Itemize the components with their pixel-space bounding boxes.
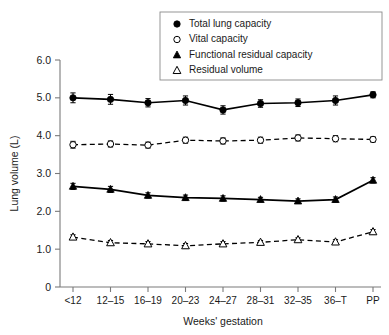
data-point-marker <box>294 236 302 243</box>
x-tick-label: 12–15 <box>97 295 125 306</box>
x-tick-label: 20–23 <box>172 295 200 306</box>
y-tick-label: 3.0 <box>36 167 51 179</box>
x-tick-label: <12 <box>65 295 82 306</box>
legend-item-label: Residual volume <box>189 64 263 75</box>
x-tick-label: PP <box>366 295 380 306</box>
axes: 01.02.03.04.05.06.0<1212–1516–1920–2324–… <box>36 54 381 306</box>
data-point-marker <box>182 137 188 143</box>
data-series <box>69 228 377 249</box>
data-point-marker <box>295 100 301 106</box>
x-tick-label: 36–T <box>324 295 347 306</box>
x-tick-label: 32–35 <box>284 295 312 306</box>
chart-canvas: 01.02.03.04.05.06.0<1212–1516–1920–2324–… <box>0 0 389 335</box>
data-series-layer <box>69 92 377 249</box>
data-point-marker <box>257 238 265 245</box>
data-point-marker <box>70 95 76 101</box>
lung-volume-chart-figure: 01.02.03.04.05.06.0<1212–1516–1920–2324–… <box>0 0 389 335</box>
data-point-marker <box>295 135 301 141</box>
y-tick-label: 0 <box>45 281 51 293</box>
data-series <box>70 92 376 114</box>
x-tick-label: 16–19 <box>134 295 162 306</box>
data-point-marker <box>107 141 113 147</box>
legend-item-label: Functional residual capacity <box>189 49 312 60</box>
data-series <box>69 176 376 204</box>
legend-item: Functional residual capacity <box>173 49 312 60</box>
y-tick-label: 5.0 <box>36 91 51 103</box>
data-point-marker <box>144 240 152 247</box>
data-point-marker <box>332 97 338 103</box>
y-tick-label: 1.0 <box>36 243 51 255</box>
legend-item: Total lung capacity <box>174 18 271 29</box>
legend-item-label: Vital capacity <box>189 33 248 44</box>
data-point-marker <box>145 100 151 106</box>
data-point-marker <box>332 135 338 141</box>
y-tick-label: 2.0 <box>36 205 51 217</box>
data-point-marker <box>370 136 376 142</box>
data-point-marker <box>145 142 151 148</box>
data-point-marker <box>107 96 113 102</box>
legend-item-label: Total lung capacity <box>189 18 271 29</box>
data-point-marker <box>182 97 188 103</box>
data-point-marker <box>220 107 226 113</box>
data-point-marker <box>257 100 263 106</box>
data-point-marker <box>69 233 77 240</box>
y-tick-label: 4.0 <box>36 129 51 141</box>
data-point-marker <box>257 137 263 143</box>
x-tick-label: 28–31 <box>247 295 275 306</box>
data-point-marker <box>370 92 376 98</box>
legend-marker-open-circle <box>174 36 180 42</box>
x-axis-title: Weeks' gestation <box>183 315 263 327</box>
data-point-marker <box>70 142 76 148</box>
data-series <box>70 135 376 149</box>
legend-marker-filled-circle <box>174 21 180 27</box>
y-axis-title: Lung volume (L) <box>8 136 20 212</box>
data-point-marker <box>369 228 377 235</box>
y-tick-label: 6.0 <box>36 54 51 66</box>
chart-legend: Total lung capacityVital capacityFunctio… <box>160 12 382 80</box>
x-tick-label: 24–27 <box>209 295 237 306</box>
data-point-marker <box>220 138 226 144</box>
